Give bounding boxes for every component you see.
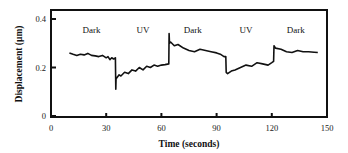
condition-label: Dark <box>184 25 202 35</box>
x-tick-label: 90 <box>212 123 221 133</box>
y-axis-title: Displacement (µm) <box>14 26 25 103</box>
condition-label: UV <box>240 25 253 35</box>
condition-label: UV <box>137 25 150 35</box>
annotations: DarkUVDarkUVDark <box>82 25 305 35</box>
y-tick-label: 0 <box>42 111 46 121</box>
x-tick-label: 30 <box>102 123 111 133</box>
y-tick-label: 0.2 <box>35 63 46 73</box>
x-tick-label: 150 <box>321 123 334 133</box>
displacement-line <box>69 34 317 90</box>
y-axis: 00.20.4 <box>35 14 56 121</box>
condition-label: Dark <box>287 25 305 35</box>
x-tick-label: 0 <box>49 123 53 133</box>
y-tick-label: 0.4 <box>35 14 46 24</box>
x-axis-title: Time (seconds) <box>159 139 220 150</box>
x-tick-label: 120 <box>265 123 278 133</box>
x-tick-label: 60 <box>157 123 166 133</box>
condition-label: Dark <box>82 25 100 35</box>
displacement-chart: 00.20.4 0306090120150 DarkUVDarkUVDark T… <box>0 0 348 153</box>
